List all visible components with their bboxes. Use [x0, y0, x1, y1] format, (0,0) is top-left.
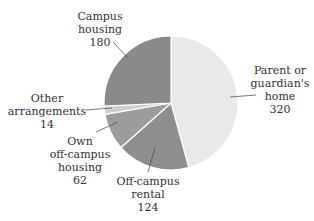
label-value: 320	[245, 103, 314, 116]
label-value: 124	[110, 201, 186, 214]
label-text: rental	[110, 188, 186, 201]
label-text: housing	[70, 23, 130, 36]
label-text: Campus	[70, 10, 130, 23]
label-own-off-campus: Own off-campus housing 62	[45, 135, 115, 187]
label-text: housing	[45, 161, 115, 174]
label-text: arrangements	[0, 105, 94, 118]
label-campus-housing: Campus housing 180	[70, 10, 130, 49]
pie-slices	[104, 36, 238, 170]
label-other-arrangements: Other arrangements 14	[0, 92, 94, 131]
label-value: 62	[45, 174, 115, 187]
label-text: guardian's	[245, 77, 314, 90]
label-text: Own	[45, 135, 115, 148]
label-text: home	[245, 90, 314, 103]
label-value: 14	[0, 118, 94, 131]
label-text: off-campus	[45, 148, 115, 161]
label-text: Parent or	[245, 64, 314, 77]
label-value: 180	[70, 36, 130, 49]
label-text: Other	[0, 92, 94, 105]
label-text: Off-campus	[110, 175, 186, 188]
label-parent-home: Parent or guardian's home 320	[245, 64, 314, 116]
label-off-campus-rental: Off-campus rental 124	[110, 175, 186, 214]
